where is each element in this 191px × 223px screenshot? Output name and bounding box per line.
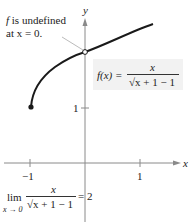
x-axis-arrow-icon bbox=[173, 161, 181, 166]
open-point-hole bbox=[83, 50, 88, 55]
limit-subscript: x → 0 bbox=[3, 204, 23, 216]
formula-numerator: x bbox=[150, 61, 155, 73]
x-axis-label: x bbox=[183, 157, 188, 169]
limit-result: = 2 bbox=[78, 190, 92, 202]
limit-fraction-bar bbox=[26, 196, 76, 197]
y-tick-label-1: 1 bbox=[73, 102, 79, 114]
y-axis-label: y bbox=[83, 4, 88, 16]
annotation-text1: is undefined bbox=[9, 14, 66, 26]
y-axis-arrow-icon bbox=[83, 18, 88, 26]
undefined-annotation: f is undefined at x = 0. bbox=[6, 14, 66, 40]
limit-lim: lim bbox=[7, 191, 22, 203]
limit-numerator: x bbox=[51, 183, 56, 195]
x-tick-label-neg1: −1 bbox=[22, 170, 34, 182]
limit-denominator: √x + 1 − 1 bbox=[27, 198, 73, 210]
function-formula-box: f(x) = x √x + 1 − 1 bbox=[93, 59, 183, 90]
x-tick-label-1: 1 bbox=[137, 170, 143, 182]
closed-endpoint bbox=[28, 104, 33, 109]
formula-lhs: f(x) = bbox=[97, 69, 122, 81]
formula-fraction-bar bbox=[127, 74, 179, 75]
formula-denominator: √x + 1 − 1 bbox=[129, 76, 175, 88]
annotation-text2: at x = 0. bbox=[6, 27, 66, 40]
